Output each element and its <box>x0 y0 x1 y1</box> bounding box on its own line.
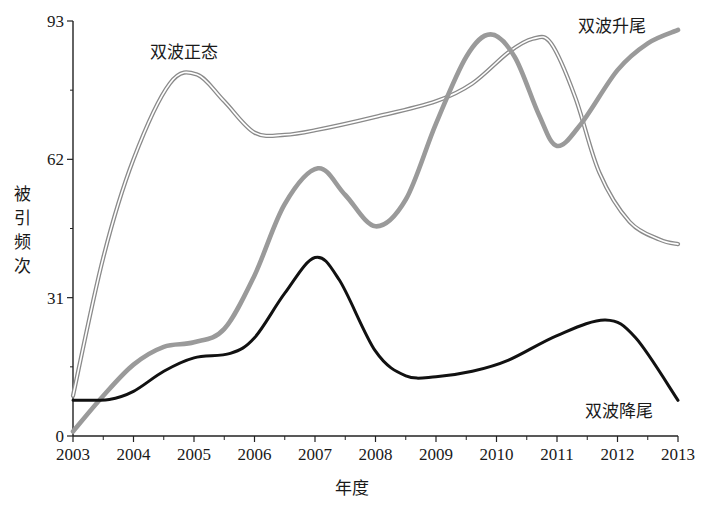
x-tick-label: 2007 <box>298 445 333 464</box>
series-label: 双波升尾 <box>578 16 646 36</box>
x-tick-label: 2009 <box>419 445 453 464</box>
series-lines <box>73 30 678 432</box>
x-tick-label: 2003 <box>56 445 90 464</box>
y-axis-title-char: 频 <box>14 232 31 252</box>
series-labels: 双波正态双波升尾双波降尾 <box>150 16 653 421</box>
x-tick-label: 2008 <box>359 445 393 464</box>
y-axis-title-char: 被 <box>14 184 31 204</box>
y-axis-title-char: 次 <box>14 256 31 276</box>
y-tick-label: 0 <box>56 427 65 446</box>
x-tick-label: 2010 <box>480 445 514 464</box>
citation-frequency-line-chart: 0316293200320042005200620072008200920102… <box>0 0 704 510</box>
y-tick-label: 93 <box>47 12 64 31</box>
x-tick-label: 2006 <box>238 445 272 464</box>
x-tick-label: 2011 <box>540 445 573 464</box>
x-tick-label: 2004 <box>117 445 152 464</box>
axes: 0316293200320042005200620072008200920102… <box>47 12 695 464</box>
series-falling-tail <box>73 257 678 400</box>
y-axis-title-char: 引 <box>14 208 31 228</box>
y-axis-title: 被引频次 <box>14 184 31 276</box>
x-tick-label: 2005 <box>177 445 211 464</box>
y-tick-label: 31 <box>47 289 64 308</box>
series-normal-double-wave <box>73 37 678 396</box>
x-tick-label: 2012 <box>601 445 635 464</box>
series-label: 双波正态 <box>150 42 218 62</box>
y-tick-label: 62 <box>47 150 64 169</box>
series-label: 双波降尾 <box>585 401 653 421</box>
x-axis-title: 年度 <box>335 478 369 498</box>
x-tick-label: 2013 <box>661 445 695 464</box>
